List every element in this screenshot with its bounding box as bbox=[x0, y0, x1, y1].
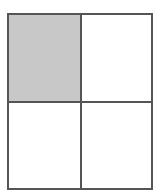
cell-top-left bbox=[9, 15, 80, 101]
horizontal-divider bbox=[9, 101, 151, 103]
quadrant-grid bbox=[7, 13, 153, 190]
cell-top-right bbox=[82, 15, 151, 101]
cell-bottom-right bbox=[82, 103, 151, 188]
cell-bottom-left bbox=[9, 103, 80, 188]
